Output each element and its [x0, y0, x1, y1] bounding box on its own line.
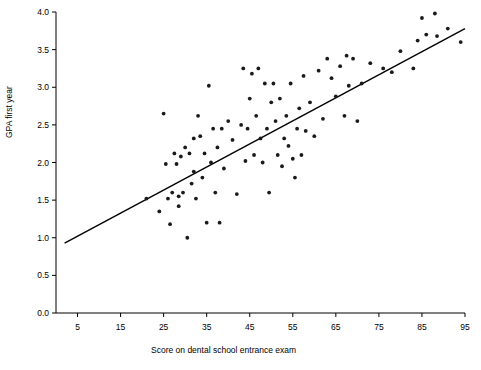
- data-point: [218, 221, 222, 225]
- scatter-plot-figure: 0.00.51.01.52.02.53.03.54.05152535455565…: [0, 0, 481, 370]
- data-point: [302, 74, 306, 78]
- data-point: [172, 152, 176, 156]
- data-point: [170, 191, 174, 195]
- data-point: [291, 157, 295, 161]
- data-point: [177, 194, 181, 198]
- x-tick-label: 85: [417, 322, 427, 332]
- data-point: [435, 34, 439, 38]
- data-point: [211, 127, 215, 131]
- data-point: [226, 119, 230, 123]
- data-point: [196, 114, 200, 118]
- data-point: [216, 146, 220, 150]
- y-tick-label: 0.0: [37, 308, 49, 318]
- data-point: [188, 152, 192, 156]
- data-point: [231, 138, 235, 142]
- data-point: [164, 162, 168, 166]
- data-point: [276, 153, 280, 157]
- data-point: [351, 57, 355, 61]
- x-tick-label: 65: [331, 322, 341, 332]
- data-point: [244, 159, 248, 163]
- y-tick-label: 2.5: [37, 120, 49, 130]
- data-point: [274, 119, 278, 123]
- data-point: [190, 182, 194, 186]
- x-tick-label: 95: [460, 322, 470, 332]
- data-point: [261, 161, 265, 165]
- y-tick-label: 4.0: [37, 7, 49, 17]
- x-tick-label: 55: [288, 322, 298, 332]
- data-point: [287, 144, 291, 148]
- y-tick-label: 1.5: [37, 195, 49, 205]
- data-point: [282, 137, 286, 141]
- y-tick-label: 1.0: [37, 233, 49, 243]
- data-point: [213, 191, 217, 195]
- data-points: [145, 12, 463, 240]
- data-point: [459, 40, 463, 44]
- data-point: [269, 100, 273, 104]
- x-tick-label: 75: [374, 322, 384, 332]
- data-point: [347, 84, 351, 88]
- data-point: [185, 236, 189, 240]
- data-point: [278, 97, 282, 101]
- data-point: [330, 76, 334, 80]
- data-point: [325, 57, 329, 61]
- data-point: [446, 27, 450, 31]
- data-point: [420, 16, 424, 20]
- data-point: [411, 67, 415, 71]
- data-point: [300, 153, 304, 157]
- y-tick-label: 3.5: [37, 45, 49, 55]
- data-point: [321, 117, 325, 121]
- data-point: [345, 54, 349, 58]
- data-point: [252, 153, 256, 157]
- data-point: [168, 222, 172, 226]
- data-point: [284, 114, 288, 118]
- data-point: [254, 114, 258, 118]
- data-point: [368, 61, 372, 65]
- data-point: [259, 137, 263, 141]
- x-tick-label: 35: [202, 322, 212, 332]
- data-point: [220, 127, 224, 131]
- data-point: [256, 67, 260, 71]
- y-tick-label: 2.0: [37, 158, 49, 168]
- data-point: [297, 106, 301, 110]
- plot-canvas: 0.00.51.01.52.02.53.03.54.05152535455565…: [0, 0, 481, 370]
- data-point: [433, 12, 437, 16]
- data-point: [209, 161, 213, 165]
- data-point: [248, 97, 252, 101]
- data-point: [308, 100, 312, 104]
- data-point: [194, 197, 198, 201]
- data-point: [360, 82, 364, 86]
- data-point: [162, 112, 166, 116]
- x-tick-label: 5: [75, 322, 80, 332]
- data-point: [200, 176, 204, 180]
- data-point: [192, 170, 196, 174]
- data-point: [267, 191, 271, 195]
- data-point: [416, 39, 420, 43]
- data-point: [304, 129, 308, 133]
- data-point: [381, 67, 385, 71]
- data-point: [312, 134, 316, 138]
- data-point: [399, 49, 403, 53]
- data-point: [205, 221, 209, 225]
- data-point: [295, 127, 299, 131]
- x-tick-label: 25: [159, 322, 169, 332]
- x-tick-label: 45: [245, 322, 255, 332]
- data-point: [338, 64, 342, 68]
- data-point: [207, 84, 211, 88]
- data-point: [263, 82, 267, 86]
- data-point: [424, 33, 428, 37]
- data-point: [293, 176, 297, 180]
- data-point: [355, 119, 359, 123]
- data-point: [198, 134, 202, 138]
- data-point: [166, 197, 170, 201]
- x-tick-label: 15: [116, 322, 126, 332]
- data-point: [177, 204, 181, 208]
- data-point: [145, 197, 149, 201]
- data-point: [334, 94, 338, 98]
- data-point: [181, 191, 185, 195]
- data-point: [390, 70, 394, 74]
- data-point: [289, 82, 293, 86]
- data-point: [280, 164, 284, 168]
- data-point: [241, 67, 245, 71]
- data-point: [183, 146, 187, 150]
- trendline: [65, 29, 465, 243]
